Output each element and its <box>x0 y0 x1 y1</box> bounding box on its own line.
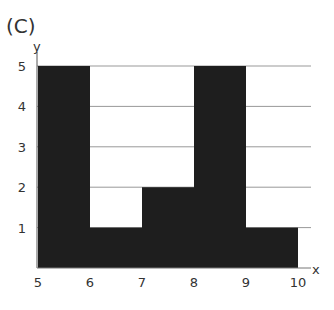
bars <box>38 66 298 268</box>
bar <box>90 228 142 268</box>
y-tick-label: 5 <box>18 59 26 74</box>
y-tick-label: 2 <box>18 180 26 195</box>
x-tick-label: 6 <box>86 275 94 290</box>
y-tick-label: 1 <box>18 221 26 236</box>
histogram-chart: 12345 5678910 y x <box>0 0 334 310</box>
y-tick-label: 3 <box>18 140 26 155</box>
bar <box>38 66 90 268</box>
x-tick-label: 8 <box>190 275 198 290</box>
y-tick-label: 4 <box>18 99 26 114</box>
y-axis-label: y <box>33 39 41 54</box>
x-tick-labels: 5678910 <box>34 275 306 290</box>
x-tick-label: 9 <box>242 275 250 290</box>
bar <box>246 228 298 268</box>
bar <box>194 66 246 268</box>
x-axis-label: x <box>312 262 320 277</box>
x-tick-label: 5 <box>34 275 42 290</box>
x-tick-label: 10 <box>290 275 307 290</box>
y-tick-labels: 12345 <box>18 59 26 236</box>
x-tick-label: 7 <box>138 275 146 290</box>
bar <box>142 187 194 268</box>
